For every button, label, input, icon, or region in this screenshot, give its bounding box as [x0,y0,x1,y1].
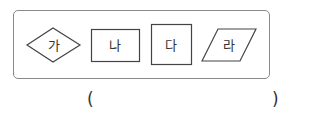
figure-label-ga: 가 [48,39,60,52]
figure-label-na: 나 [109,39,121,52]
figure-label-da: 다 [165,39,177,52]
answer-close-paren: ) [272,91,279,108]
answer-blank[interactable] [100,91,265,109]
answer-open-paren: ( [87,91,94,108]
figure-label-ra: 라 [223,39,235,52]
